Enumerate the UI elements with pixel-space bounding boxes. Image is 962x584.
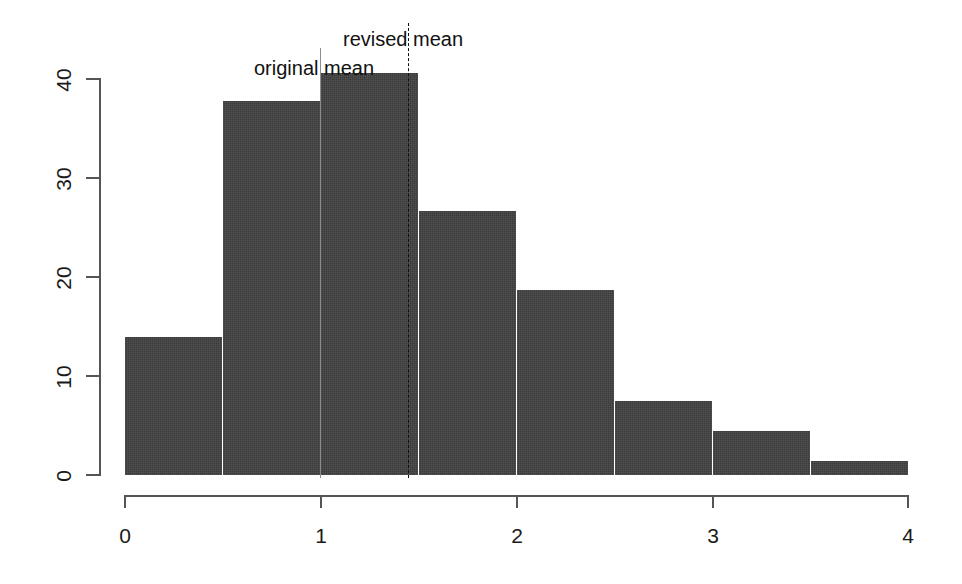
y-axis-tick-label: 20 (52, 258, 76, 298)
histogram-bar (418, 211, 517, 475)
y-axis-tick-label: 0 (52, 456, 76, 496)
x-axis-tick (124, 495, 126, 508)
x-axis-tick (516, 495, 518, 508)
x-axis-tick (907, 495, 909, 508)
histogram-bar (320, 73, 419, 475)
revised-mean-label: revised mean (343, 28, 463, 51)
y-axis-tick (86, 375, 99, 377)
x-axis-tick-label: 2 (496, 524, 538, 548)
original-mean-label: original mean (254, 57, 374, 80)
original-mean-marker-line (320, 48, 321, 478)
histogram-bar (222, 101, 321, 475)
y-axis-tick (86, 78, 99, 80)
histogram-bar (124, 337, 223, 475)
x-axis-tick (320, 495, 322, 508)
revised-mean-marker-line (408, 23, 409, 478)
y-axis-tick-label: 10 (52, 357, 76, 397)
x-axis-tick-label: 0 (104, 524, 146, 548)
y-axis-tick (86, 474, 99, 476)
y-axis-tick-label: 40 (52, 60, 76, 100)
y-axis-tick-label: 30 (52, 159, 76, 199)
histogram-figure: revised mean original mean 40 30 20 10 0… (0, 0, 962, 584)
x-axis-tick-label: 4 (887, 524, 929, 548)
plot-area: revised mean original mean 40 30 20 10 0… (0, 0, 962, 584)
y-axis-tick (86, 177, 99, 179)
histogram-bar (516, 290, 615, 475)
y-axis-tick (86, 276, 99, 278)
x-axis-tick-label: 3 (692, 524, 734, 548)
x-axis-tick-label: 1 (300, 524, 342, 548)
y-axis-line (99, 78, 101, 476)
histogram-bar (810, 461, 909, 475)
histogram-bar (614, 401, 713, 475)
x-axis-tick (712, 495, 714, 508)
histogram-bar (712, 431, 811, 475)
